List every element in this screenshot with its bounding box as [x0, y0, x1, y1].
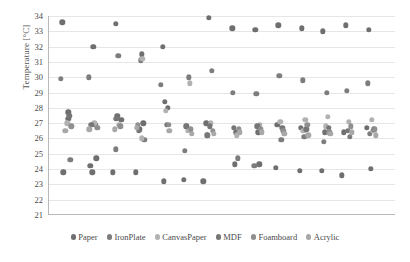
data-point	[373, 133, 378, 138]
data-point	[67, 113, 72, 118]
data-point	[306, 133, 311, 138]
data-point	[110, 169, 115, 174]
legend-item-canvaspaper[interactable]: CanvasPaper	[155, 232, 207, 242]
data-point	[141, 120, 146, 125]
data-point	[63, 128, 68, 133]
data-point	[259, 130, 264, 135]
legend-item-paper[interactable]: Paper	[71, 232, 98, 242]
data-point	[68, 157, 73, 162]
data-point	[368, 166, 373, 171]
data-point	[206, 15, 211, 20]
data-point	[364, 125, 369, 130]
chart-legend: PaperIronPlateCanvasPaperMDFFoamboardAcr…	[0, 232, 410, 242]
y-tick-label: 33	[35, 27, 44, 36]
data-point	[299, 26, 304, 31]
data-point	[209, 68, 214, 73]
data-point	[237, 130, 242, 135]
legend-label: IronPlate	[114, 232, 145, 242]
data-point	[256, 162, 261, 167]
data-point	[118, 124, 123, 129]
data-points-layer	[49, 16, 395, 214]
data-point	[281, 131, 286, 136]
data-point	[86, 75, 91, 80]
legend-marker-icon	[306, 234, 311, 239]
y-tick-label: 34	[35, 12, 44, 21]
legend-marker-icon	[216, 234, 221, 239]
legend-item-ironplate[interactable]: IronPlate	[107, 232, 146, 242]
data-point	[349, 130, 354, 135]
data-point	[158, 82, 163, 87]
legend-item-mdf[interactable]: MDF	[216, 232, 242, 242]
y-tick-label: 22	[35, 195, 44, 204]
data-point	[325, 114, 330, 119]
data-point	[324, 90, 329, 95]
plot-area	[48, 16, 395, 215]
data-point	[230, 90, 235, 95]
data-point	[253, 27, 258, 32]
data-point	[305, 122, 310, 127]
data-point	[252, 163, 257, 168]
legend-label: Acrylic	[314, 232, 340, 242]
y-axis-tick-labels: 3433323130292827262524232221	[26, 16, 43, 215]
legend-label: CanvasPaper	[162, 232, 206, 242]
data-point	[112, 127, 117, 132]
data-point	[277, 73, 282, 78]
data-point	[343, 22, 348, 27]
y-tick-label: 29	[35, 88, 44, 97]
data-point	[94, 125, 99, 130]
data-point	[339, 172, 344, 177]
y-tick-label: 28	[35, 104, 44, 113]
data-point	[182, 148, 187, 153]
data-point	[279, 137, 284, 142]
data-point	[320, 29, 325, 34]
legend-marker-icon	[107, 234, 112, 239]
data-point	[344, 88, 349, 93]
y-tick-label: 23	[35, 180, 44, 189]
data-point	[187, 81, 192, 86]
data-point	[372, 127, 377, 132]
legend-item-acrylic[interactable]: Acrylic	[306, 232, 339, 242]
legend-item-foamboard[interactable]: Foamboard	[251, 232, 297, 242]
data-point	[91, 44, 96, 49]
data-point	[348, 124, 353, 129]
data-point	[365, 81, 370, 86]
data-point	[116, 53, 121, 58]
data-point	[300, 78, 305, 83]
data-point	[278, 119, 283, 124]
data-point	[366, 27, 371, 32]
data-point	[186, 75, 191, 80]
data-point	[163, 108, 168, 113]
data-point	[113, 21, 118, 26]
data-point	[140, 56, 145, 61]
data-point	[90, 169, 95, 174]
data-point	[201, 179, 206, 184]
data-point	[254, 91, 259, 96]
data-point	[321, 139, 326, 144]
y-tick-label: 25	[35, 150, 44, 159]
scatter-chart: Temperature [°C] 34333231302928272625242…	[0, 0, 410, 262]
data-point	[304, 127, 309, 132]
data-point	[229, 26, 234, 31]
data-point	[160, 44, 165, 49]
y-tick-label: 32	[35, 42, 44, 51]
legend-marker-icon	[71, 234, 76, 239]
data-point	[94, 156, 99, 161]
legend-label: Foamboard	[258, 232, 297, 242]
data-point	[328, 131, 333, 136]
y-tick-label: 24	[35, 165, 44, 174]
data-point	[161, 179, 166, 184]
y-tick-label: 31	[35, 58, 44, 67]
data-point	[369, 117, 374, 122]
data-point	[88, 163, 93, 168]
data-point	[113, 146, 118, 151]
data-point	[68, 124, 73, 129]
data-point	[162, 99, 167, 104]
y-tick-label: 30	[35, 73, 44, 82]
data-point	[58, 76, 63, 81]
y-tick-label: 26	[35, 134, 44, 143]
data-point	[276, 22, 281, 27]
data-point	[235, 156, 240, 161]
data-point	[319, 168, 324, 173]
legend-label: Paper	[78, 232, 97, 242]
legend-marker-icon	[155, 234, 160, 239]
